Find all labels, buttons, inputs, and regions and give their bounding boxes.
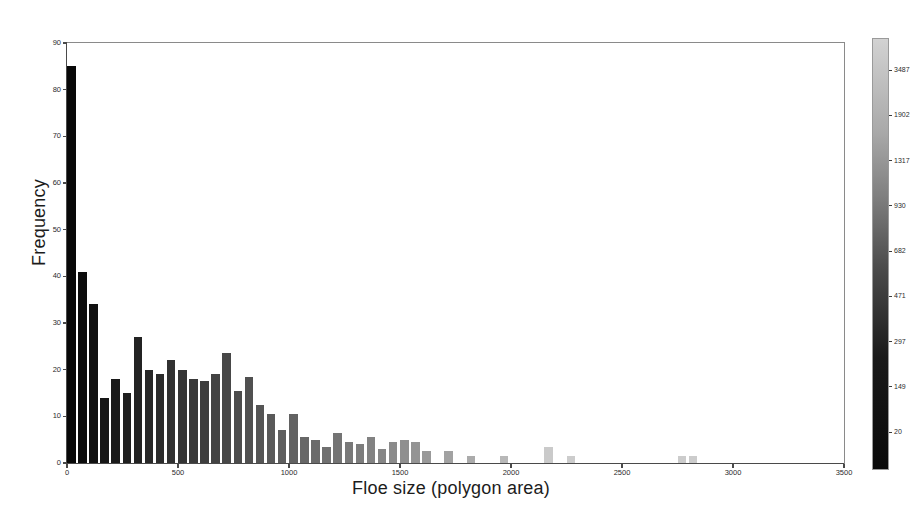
x-axis-label: Floe size (polygon area) xyxy=(0,478,918,499)
histogram-bar xyxy=(567,456,576,463)
colorbar-tick-mark xyxy=(889,386,892,387)
histogram-bar xyxy=(78,272,87,463)
y-tick-mark xyxy=(63,136,67,137)
colorbar-tick-label: 1317 xyxy=(894,157,910,164)
y-tick-label: 70 xyxy=(53,132,61,140)
histogram-bar xyxy=(300,437,309,463)
colorbar-tick-mark xyxy=(889,70,892,71)
y-axis-label: Frequency xyxy=(29,163,50,283)
histogram-bar xyxy=(333,433,342,463)
y-tick-mark xyxy=(63,89,67,90)
y-tick-mark xyxy=(63,369,67,370)
y-tick-label: 50 xyxy=(53,226,61,234)
histogram-bar xyxy=(678,456,687,463)
histogram-bar xyxy=(111,379,120,463)
histogram-bar xyxy=(378,449,387,463)
plot-right-border xyxy=(844,42,845,464)
colorbar-tick-mark xyxy=(889,115,892,116)
histogram-bar xyxy=(134,337,143,463)
histogram-bar xyxy=(367,437,376,463)
colorbar-tick-label: 1902 xyxy=(894,111,910,118)
colorbar-tick-mark xyxy=(889,296,892,297)
x-tick-label: 2500 xyxy=(602,468,642,477)
x-axis-label-text: Floe size (polygon area) xyxy=(352,478,550,498)
y-tick-label: 10 xyxy=(53,412,61,420)
y-tick-label: 40 xyxy=(53,272,61,280)
histogram-bars xyxy=(67,43,844,463)
histogram-bar xyxy=(256,405,265,463)
histogram-bar xyxy=(145,370,154,463)
histogram-bar xyxy=(500,456,509,463)
histogram-bar xyxy=(100,398,109,463)
histogram-bar xyxy=(544,447,553,463)
y-tick-label: 20 xyxy=(53,366,61,374)
histogram-bar xyxy=(289,414,298,463)
colorbar-tick-mark xyxy=(889,432,892,433)
histogram-figure: Frequency 0102030405060708090 0500100015… xyxy=(0,0,918,520)
colorbar-tick-label: 297 xyxy=(894,338,906,345)
histogram-bar xyxy=(200,381,209,463)
colorbar: 20149297471682930131719023487 xyxy=(872,38,918,470)
y-tick-mark xyxy=(63,182,67,183)
histogram-bar xyxy=(189,379,198,463)
y-tick-mark xyxy=(63,276,67,277)
histogram-bar xyxy=(422,451,431,463)
y-tick-mark xyxy=(63,229,67,230)
x-tick-label: 1000 xyxy=(269,468,309,477)
histogram-bar xyxy=(245,377,254,463)
y-tick-label: 30 xyxy=(53,319,61,327)
colorbar-tick-mark xyxy=(889,205,892,206)
x-tick-label: 3000 xyxy=(713,468,753,477)
histogram-bar xyxy=(311,440,320,463)
histogram-bar xyxy=(178,370,187,463)
y-tick-label: 0 xyxy=(57,459,61,467)
x-tick-label: 500 xyxy=(158,468,198,477)
y-tick-mark xyxy=(63,42,67,43)
histogram-bar xyxy=(278,430,287,463)
histogram-bar xyxy=(67,66,76,463)
colorbar-tick-mark xyxy=(889,160,892,161)
histogram-bar xyxy=(356,444,365,463)
y-tick-mark xyxy=(63,416,67,417)
colorbar-tick-label: 682 xyxy=(894,247,906,254)
histogram-bar xyxy=(400,440,409,463)
histogram-bar xyxy=(156,374,165,463)
x-tick-label: 1500 xyxy=(380,468,420,477)
x-tick-label: 0 xyxy=(47,468,87,477)
histogram-bar xyxy=(234,391,243,463)
colorbar-tick-label: 471 xyxy=(894,292,906,299)
colorbar-tick-mark xyxy=(889,251,892,252)
histogram-bar xyxy=(411,442,420,463)
histogram-bar xyxy=(123,393,132,463)
histogram-bar xyxy=(322,447,331,463)
histogram-bar xyxy=(689,456,698,463)
y-tick-mark xyxy=(63,322,67,323)
colorbar-gradient xyxy=(872,38,889,470)
colorbar-tick-label: 930 xyxy=(894,202,906,209)
histogram-bar xyxy=(222,353,231,463)
histogram-bar xyxy=(89,304,98,463)
x-tick-label: 2000 xyxy=(491,468,531,477)
histogram-bar xyxy=(345,442,354,463)
colorbar-tick-label: 20 xyxy=(894,428,902,435)
histogram-bar xyxy=(444,451,453,463)
histogram-bar xyxy=(467,456,476,463)
histogram-bar xyxy=(389,442,398,463)
colorbar-tick-mark xyxy=(889,341,892,342)
colorbar-tick-label: 3487 xyxy=(894,66,910,73)
y-tick-label: 90 xyxy=(53,39,61,47)
colorbar-tick-label: 149 xyxy=(894,383,906,390)
histogram-bar xyxy=(211,374,220,463)
y-tick-label: 60 xyxy=(53,179,61,187)
histogram-bar xyxy=(267,414,276,463)
y-tick-label: 80 xyxy=(53,86,61,94)
x-tick-label: 3500 xyxy=(824,468,864,477)
histogram-bar xyxy=(167,360,176,463)
